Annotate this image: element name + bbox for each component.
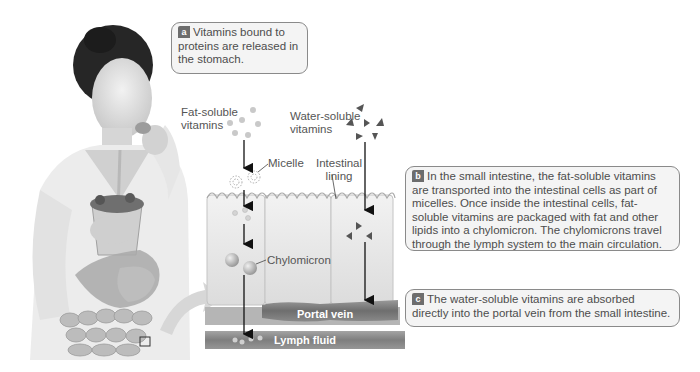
callout-b-text: In the small intestine, the fat-soluble … <box>412 170 662 250</box>
portal-vein-label: Portal vein <box>297 308 354 320</box>
step-badge-c: c <box>412 293 424 305</box>
callout-a-text: Vitamins bound to proteins are released … <box>178 26 298 65</box>
intestinal-line1: Intestinal <box>316 157 362 170</box>
intestinal-line2: lining <box>316 170 362 183</box>
intestinal-cells <box>207 175 395 305</box>
callout-a: aVitamins bound to proteins are released… <box>171 22 308 74</box>
micelle-icons <box>230 171 260 188</box>
chylomicron-ball <box>225 253 239 267</box>
water-soluble-line1: Water-soluble <box>290 110 361 123</box>
intestinal-lining-label: Intestinal lining <box>316 157 362 183</box>
callout-c-text: The water-soluble vitamins are absorbed … <box>412 293 670 319</box>
micelle-label: Micelle <box>268 157 304 170</box>
chylomicron-ball <box>243 261 257 275</box>
lymph-fluid-label: Lymph fluid <box>274 334 336 346</box>
callout-c: cThe water-soluble vitamins are absorbed… <box>405 289 680 327</box>
fat-soluble-label: Fat-soluble vitamins <box>181 106 238 132</box>
fat-soluble-line1: Fat-soluble <box>181 106 238 119</box>
callout-b: bIn the small intestine, the fat-soluble… <box>405 166 680 251</box>
step-badge-b: b <box>412 170 424 182</box>
water-soluble-label: Water-soluble vitamins <box>290 110 361 136</box>
fat-soluble-line2: vitamins <box>181 119 238 132</box>
chylomicron-label: Chylomicron <box>267 254 331 267</box>
woman-figure <box>30 25 190 360</box>
step-badge-a: a <box>178 26 190 38</box>
water-soluble-line2: vitamins <box>290 123 361 136</box>
